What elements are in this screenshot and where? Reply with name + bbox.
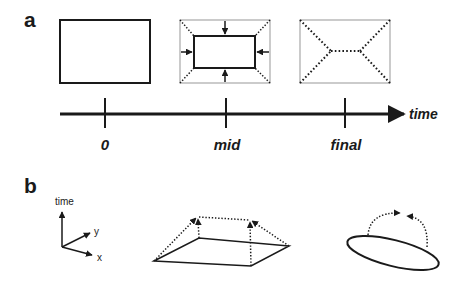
y-axis-icon (62, 233, 90, 247)
rise-arc-left (368, 213, 400, 235)
initial-rectangle (60, 20, 150, 83)
tick-label-final: final (331, 136, 363, 153)
rise-back-right (252, 221, 289, 246)
rise-front-left (154, 218, 196, 261)
coordinate-axes: time y x (55, 196, 102, 263)
axis-label-time: time (55, 196, 74, 207)
tick-label-mid: mid (214, 136, 242, 153)
tick-label-0: 0 (101, 136, 110, 153)
skeleton-edge-bl (300, 51, 331, 83)
panel-b: b time y x (24, 174, 442, 277)
roof-ridge (199, 217, 249, 220)
corner-trace-tl (180, 20, 194, 36)
panel-a: a (24, 8, 438, 153)
stage-mid-shrinking-rectangle (180, 20, 270, 83)
x-axis-icon (62, 247, 92, 255)
axis-label-y: y (94, 226, 99, 237)
stage-final-skeleton (300, 20, 390, 83)
figure: a (0, 0, 466, 287)
roof-base (154, 238, 289, 266)
skeleton-edge-tr (360, 20, 390, 51)
panel-label-b: b (24, 174, 37, 197)
rise-front-right (250, 222, 251, 266)
stage-initial-rectangle (60, 20, 150, 83)
rise-arc-right (407, 216, 427, 247)
time-axis-label: time (409, 106, 438, 122)
axis-label-x: x (97, 252, 102, 263)
panel-label-a: a (24, 8, 36, 31)
corner-trace-br (255, 68, 270, 83)
rise-back-left (198, 219, 199, 238)
timeline: time 0 mid final (60, 98, 438, 153)
skeleton-edge-tl (300, 20, 331, 51)
final-outline (300, 20, 390, 83)
shrunk-rectangle (194, 36, 255, 68)
roof-surface (154, 217, 289, 266)
corner-trace-bl (180, 68, 194, 83)
skeleton-edge-br (360, 51, 390, 83)
corner-trace-tr (255, 20, 270, 36)
ellipse-ridge (344, 213, 441, 277)
